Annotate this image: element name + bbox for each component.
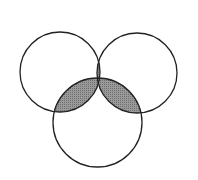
- venn-diagram: [0, 0, 198, 180]
- circle-bottom: [53, 78, 142, 167]
